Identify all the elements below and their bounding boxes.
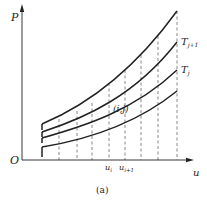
curve-bottom — [42, 91, 177, 147]
curve-t-j — [42, 70, 177, 138]
curves — [42, 11, 177, 157]
tick-label-u-i-plus-1: ui+1 — [119, 163, 134, 173]
y-axis-label: P — [10, 11, 19, 24]
tick-label-u-i: ui — [105, 163, 112, 173]
pu-diagram: P O u Tj+1 Tj (i,j) ui ui+1 (a) — [0, 0, 207, 200]
origin-label: O — [10, 154, 19, 167]
x-axis-label: u — [193, 167, 199, 178]
x-axis-arrow-icon — [186, 158, 194, 162]
curve-label-t-j: Tj — [181, 64, 190, 77]
curve-label-t-j-plus-1: Tj+1 — [181, 36, 198, 49]
node-label: (i,j) — [113, 104, 129, 114]
figure-caption: (a) — [96, 185, 108, 195]
y-axis-arrow-icon — [20, 4, 24, 12]
curve-top — [42, 11, 177, 124]
